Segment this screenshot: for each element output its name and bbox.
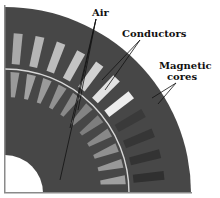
- machine-diagram: Air Conductors Magnetic cores: [0, 0, 220, 198]
- label-conductors: Conductors: [122, 28, 187, 39]
- left-edge-line: [4, 5, 6, 193]
- label-air: Air: [91, 7, 110, 18]
- label-magnetic: Magnetic: [159, 60, 212, 71]
- label-cores: cores: [167, 71, 197, 82]
- bottom-edge-line: [4, 192, 192, 194]
- cross-section-svg: Air Conductors Magnetic cores: [0, 0, 220, 198]
